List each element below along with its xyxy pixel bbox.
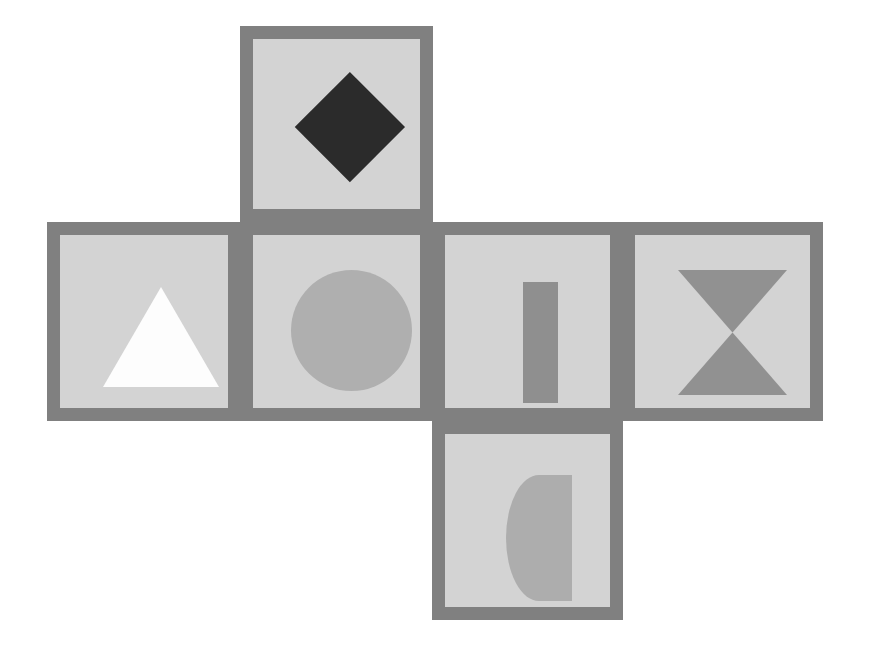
panel-circle[interactable] <box>240 222 433 421</box>
circle-icon <box>291 270 412 391</box>
panel-semicircle-inner <box>445 434 610 607</box>
panel-bar[interactable] <box>432 222 623 421</box>
triangle-icon <box>103 287 219 387</box>
panel-triangle-inner <box>60 235 228 408</box>
half-disc-icon <box>506 475 572 601</box>
panel-semicircle[interactable] <box>432 421 623 620</box>
panel-diamond-inner <box>253 39 420 209</box>
panel-circle-inner <box>253 235 420 408</box>
panel-hourglass[interactable] <box>622 222 823 421</box>
diamond-icon <box>295 72 405 182</box>
panel-triangle[interactable] <box>47 222 241 421</box>
hourglass-svg <box>678 270 787 395</box>
panel-hourglass-inner <box>635 235 810 408</box>
figure-canvas <box>0 0 870 656</box>
panel-diamond[interactable] <box>240 26 433 222</box>
panel-bar-inner <box>445 235 610 408</box>
hourglass-icon <box>678 270 787 395</box>
vertical-bar-icon <box>523 282 558 403</box>
